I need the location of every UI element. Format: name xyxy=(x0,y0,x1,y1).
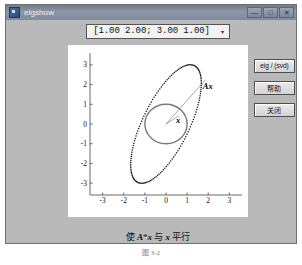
plot-caption: 使 A*x 与 x 平行 xyxy=(68,233,248,242)
close-glyph: ✕ xyxy=(284,9,290,16)
matrix-select[interactable]: [1.00 2.00; 3.00 1.00] ▾ xyxy=(86,24,230,39)
window-title: eigshow xyxy=(24,9,54,17)
svg-text:1: 1 xyxy=(83,100,87,109)
svg-text:0: 0 xyxy=(83,120,87,129)
minimize-icon[interactable]: — xyxy=(247,7,262,18)
eig-svd-toggle-label: eig / (svd) xyxy=(260,63,289,70)
close-button-label: 关闭 xyxy=(267,107,282,114)
svg-text:2: 2 xyxy=(206,196,210,205)
svg-text:1: 1 xyxy=(185,196,189,205)
close-button[interactable]: 关闭 xyxy=(254,103,295,117)
eigshow-plot: -3-2-10123-3-2-10123 x Ax xyxy=(68,45,248,217)
side-button-group: eig / (svd) 帮助 关闭 xyxy=(254,59,298,125)
vector-x-label: x xyxy=(175,115,181,125)
svg-text:-2: -2 xyxy=(121,196,127,205)
title-bar: eigshow — □ ✕ xyxy=(6,5,296,20)
svg-text:2: 2 xyxy=(83,80,87,89)
figure-caption: 图 3-2 xyxy=(0,249,302,257)
svg-text:-2: -2 xyxy=(81,159,87,168)
svg-text:3: 3 xyxy=(83,60,87,69)
caption-prefix: 使 xyxy=(126,232,137,242)
svg-text:-3: -3 xyxy=(81,179,87,188)
help-button[interactable]: 帮助 xyxy=(254,81,295,95)
app-icon xyxy=(9,7,20,18)
vector-ax-label: Ax xyxy=(202,81,214,91)
minimize-glyph: — xyxy=(251,9,258,16)
svg-text:0: 0 xyxy=(164,196,168,205)
svg-text:3: 3 xyxy=(227,196,231,205)
svg-text:-1: -1 xyxy=(81,139,87,148)
chevron-down-icon: ▾ xyxy=(216,29,229,35)
maximize-glyph: □ xyxy=(268,9,272,16)
help-button-label: 帮助 xyxy=(267,85,282,92)
svg-text:-1: -1 xyxy=(142,196,148,205)
eig-svd-toggle-button[interactable]: eig / (svd) xyxy=(254,59,295,73)
maximize-icon[interactable]: □ xyxy=(263,7,278,18)
window-controls: — □ ✕ xyxy=(247,7,294,18)
matrix-select-value: [1.00 2.00; 3.00 1.00] xyxy=(87,27,216,36)
close-icon[interactable]: ✕ xyxy=(279,7,294,18)
caption-mid: 与 xyxy=(152,232,166,242)
plot-area[interactable]: -3-2-10123-3-2-10123 x Ax xyxy=(68,45,248,217)
eigshow-window: eigshow — □ ✕ [1.00 2.00; 3.00 1.00] ▾ -… xyxy=(5,4,297,244)
svg-text:-3: -3 xyxy=(100,196,106,205)
caption-suffix: 平行 xyxy=(170,232,190,242)
